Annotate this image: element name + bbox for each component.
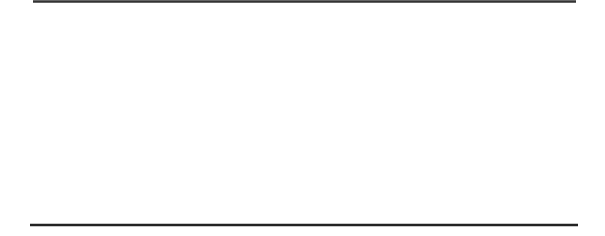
puzzle-canvas [0,0,605,236]
